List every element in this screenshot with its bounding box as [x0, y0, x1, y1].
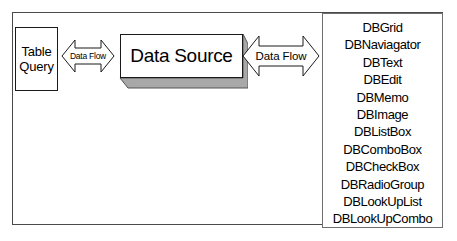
- table-query-box: Table Query: [15, 27, 58, 91]
- list-item: DBLookUpCombo: [333, 210, 433, 227]
- list-item: DBLookUpList: [343, 193, 421, 210]
- bidirectional-arrow-icon: [242, 31, 320, 81]
- list-item: DBComboBox: [343, 141, 421, 158]
- table-query-line-2: Query: [19, 59, 53, 74]
- list-item: DBRadioGroup: [341, 176, 424, 193]
- list-item: DBImage: [357, 106, 408, 123]
- diagram-canvas: Table Query Data Flow Data Source Data F…: [0, 0, 457, 241]
- list-item: DBEdit: [363, 71, 401, 88]
- list-item: DBGrid: [362, 19, 402, 36]
- list-item: DBText: [363, 54, 403, 71]
- list-item: DBMemo: [357, 89, 409, 106]
- data-flow-arrow-left: Data Flow: [61, 32, 115, 80]
- list-item: DBCheckBox: [346, 158, 419, 175]
- data-source-label: Data Source: [130, 45, 232, 67]
- data-source-face: Data Source: [120, 34, 243, 78]
- bidirectional-arrow-icon: [61, 32, 115, 80]
- data-flow-arrow-right: Data Flow: [242, 31, 320, 81]
- list-item: DBNaviagator: [344, 36, 420, 53]
- db-component-list: DBGrid DBNaviagator DBText DBEdit DBMemo…: [322, 13, 443, 228]
- data-source-box: Data Source: [118, 32, 248, 90]
- table-query-line-1: Table: [21, 44, 51, 59]
- list-item: DBListBox: [354, 123, 411, 140]
